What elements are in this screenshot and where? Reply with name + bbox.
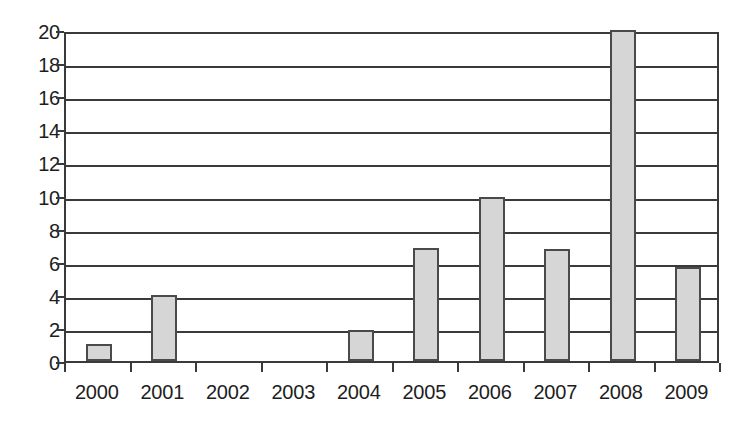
x-axis-tick-label: 2009 (654, 378, 720, 406)
bar (610, 30, 636, 361)
y-axis-tick-mark (56, 31, 64, 33)
bar (413, 248, 439, 361)
y-axis-tick-mark (56, 329, 64, 331)
bar (86, 344, 112, 361)
y-axis-tick-label: 14 (16, 121, 60, 141)
y-axis-tick-mark (56, 230, 64, 232)
bar (675, 267, 701, 361)
y-axis-tick-label: 8 (16, 221, 60, 241)
y-axis-tick-mark (56, 163, 64, 165)
x-axis-tick-label: 2002 (195, 378, 261, 406)
x-axis-tick-mark (654, 363, 656, 372)
x-axis-tick-label: 2003 (261, 378, 327, 406)
y-axis-tick-label: 6 (16, 254, 60, 274)
x-axis-tick-label: 2004 (326, 378, 392, 406)
bar-series (66, 34, 717, 361)
y-axis-tick-mark (56, 130, 64, 132)
y-axis-tick-label: 16 (16, 88, 60, 108)
y-axis-tick-label: 20 (16, 22, 60, 42)
x-axis-tick-mark (261, 363, 263, 372)
plot-area (64, 32, 719, 363)
x-axis-tick-label: 2005 (392, 378, 458, 406)
y-axis-tick-mark (56, 263, 64, 265)
x-axis-tick-label: 2001 (130, 378, 196, 406)
y-axis-tick-label: 2 (16, 320, 60, 340)
x-axis-tick-mark (392, 363, 394, 372)
x-axis-tick-mark (130, 363, 132, 372)
y-axis-tick-label: 12 (16, 154, 60, 174)
y-axis-tick-label: 10 (16, 188, 60, 208)
y-axis-tick-label: 4 (16, 287, 60, 307)
x-axis-tick-mark (719, 363, 721, 372)
x-axis-tick-mark (523, 363, 525, 372)
y-axis-tick-mark (56, 362, 64, 364)
x-axis-tick-mark (195, 363, 197, 372)
x-axis-ticks (64, 363, 719, 373)
bar (348, 330, 374, 361)
x-axis-tick-mark (326, 363, 328, 372)
x-axis-tick-mark (588, 363, 590, 372)
x-axis-tick-mark (64, 363, 66, 372)
x-axis-tick-label: 2007 (523, 378, 589, 406)
x-axis-tick-label: 2000 (64, 378, 130, 406)
x-axis-tick-mark (457, 363, 459, 372)
bar-chart: 02468101214161820 2000200120022003200420… (0, 0, 755, 429)
y-axis-tick-mark (56, 296, 64, 298)
y-axis-tick-mark (56, 197, 64, 199)
x-axis-labels: 2000200120022003200420052006200720082009 (64, 378, 719, 410)
y-axis-tick-mark (56, 97, 64, 99)
y-axis-tick-label: 0 (16, 353, 60, 373)
y-axis-tick-mark (56, 64, 64, 66)
x-axis-tick-label: 2006 (457, 378, 523, 406)
bar (544, 249, 570, 361)
y-axis-tick-label: 18 (16, 55, 60, 75)
bar (479, 197, 505, 361)
bar (151, 295, 177, 361)
x-axis-tick-label: 2008 (588, 378, 654, 406)
